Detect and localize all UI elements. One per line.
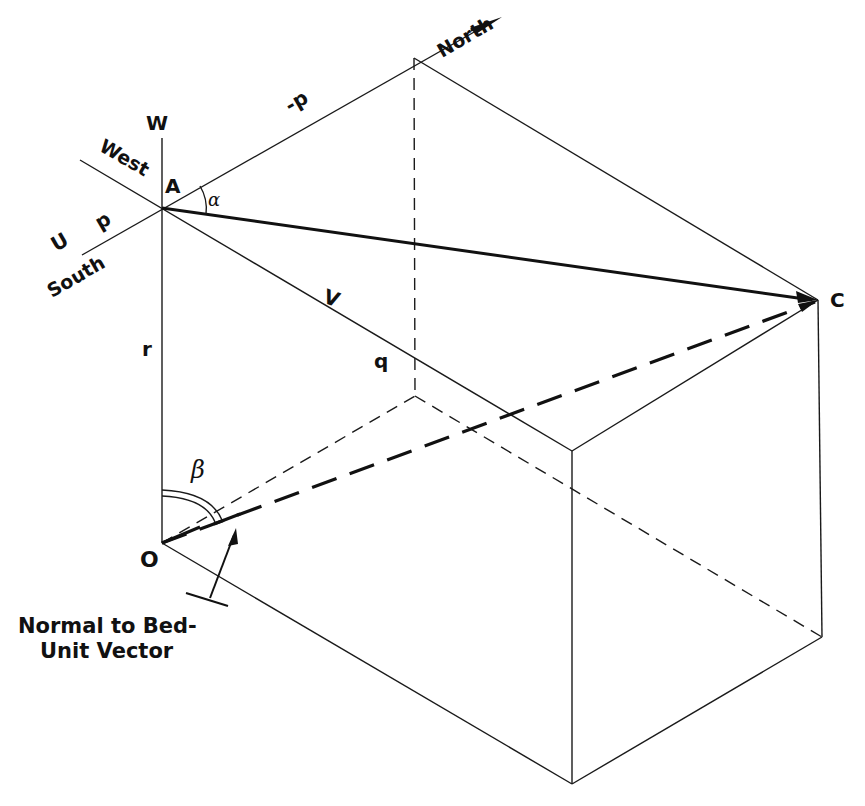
annotation-normal-line2: Unit Vector	[40, 639, 174, 663]
label-A: A	[165, 174, 181, 198]
normal-vector-short	[162, 527, 200, 543]
beta-arc-outer	[162, 490, 222, 520]
label-beta: β	[190, 456, 205, 484]
label-U: U	[47, 227, 73, 256]
label-q: q	[374, 349, 388, 373]
normal-pointer-base	[186, 593, 228, 606]
box-top-front-right-edge	[572, 300, 818, 451]
normal-vector-tick	[214, 514, 240, 524]
label-north: North	[433, 12, 497, 62]
bed-normal-diagram: W A West U p South -p North α V q r C β …	[0, 0, 865, 806]
alpha-arc	[200, 186, 206, 214]
label-C: C	[830, 288, 845, 312]
annotation-normal-line1: Normal to Bed-	[18, 614, 197, 638]
box-bottom-right-edge	[572, 637, 822, 784]
label-south: South	[43, 251, 108, 301]
box-hidden-bottom-back	[415, 396, 822, 637]
label-p: p	[91, 206, 115, 234]
north-south-axis-line	[82, 23, 490, 255]
vector-OC-dashed	[162, 302, 815, 543]
box-right-vertical-edge	[818, 300, 822, 637]
label-V: V	[320, 284, 343, 312]
box-top-back-right-edge	[414, 58, 818, 300]
box-bottom-left-edge	[162, 543, 572, 784]
label-alpha: α	[208, 189, 220, 210]
label-O: O	[140, 547, 159, 572]
label-W: W	[146, 111, 168, 135]
beta-arc-inner	[162, 496, 215, 522]
box-back-vertical-hidden	[414, 58, 415, 396]
vector-AC	[162, 208, 812, 300]
label-r: r	[142, 337, 152, 361]
label-neg-p: -p	[281, 85, 313, 117]
label-west: West	[96, 134, 153, 180]
normal-pointer-arrowhead-icon	[228, 528, 238, 546]
